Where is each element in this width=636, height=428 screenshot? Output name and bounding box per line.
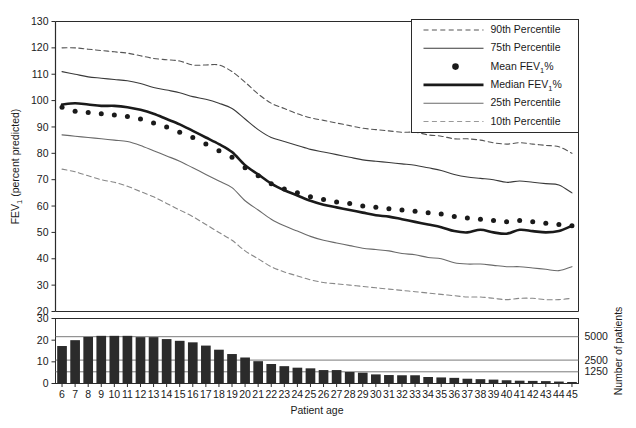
bar	[358, 373, 368, 384]
chart-figure: 2030405060708090100110120130010203012502…	[0, 0, 636, 428]
bar	[410, 375, 420, 383]
bar	[214, 350, 224, 384]
mean-marker	[112, 113, 117, 118]
y2-tick-label: 1250	[585, 365, 609, 377]
x-tick-label: 15	[174, 388, 186, 400]
mean-marker	[230, 155, 235, 160]
y-tick-label: 30	[37, 279, 49, 291]
bar	[240, 358, 250, 384]
bar	[397, 375, 407, 383]
bar	[567, 382, 577, 384]
bar	[70, 340, 80, 383]
x-tick-label: 29	[357, 388, 369, 400]
mean-marker	[530, 219, 535, 224]
legend: 90th Percentile75th PercentileMean FEV1%…	[412, 20, 579, 133]
legend-label: 75th Percentile	[491, 41, 561, 53]
mean-marker	[360, 204, 365, 209]
x-tick-label: 21	[252, 388, 264, 400]
x-tick-label: 34	[422, 388, 434, 400]
y-bar-tick-label: 30	[37, 312, 49, 324]
mean-marker	[413, 209, 418, 214]
mean-marker	[321, 197, 326, 202]
mean-marker	[86, 110, 91, 115]
y-tick-label: 90	[37, 121, 49, 133]
y-tick-label: 110	[32, 68, 49, 80]
mean-marker	[426, 210, 431, 215]
bar	[476, 379, 486, 383]
x-tick-label: 44	[553, 388, 565, 400]
x-axis: 6789101112131415161718192021222324252627…	[59, 384, 578, 416]
bar	[109, 336, 119, 384]
bar	[175, 341, 185, 384]
bar	[528, 381, 538, 384]
mean-marker	[478, 217, 483, 222]
bar	[83, 337, 93, 384]
bar	[188, 342, 198, 383]
bar	[436, 377, 446, 383]
bar	[489, 380, 499, 384]
legend-label: 10th Percentile	[491, 115, 561, 127]
mean-marker	[491, 218, 496, 223]
mean-marker	[164, 124, 169, 129]
bar	[371, 374, 381, 383]
x-tick-label: 24	[292, 388, 304, 400]
x-tick-label: 12	[135, 388, 147, 400]
bar	[201, 346, 211, 384]
y-bar-tick-label: 20	[37, 334, 49, 346]
bar	[345, 372, 355, 383]
bar	[423, 377, 433, 384]
x-tick-label: 42	[527, 388, 539, 400]
legend-label: 25th Percentile	[491, 96, 561, 108]
bar	[136, 337, 146, 383]
bar	[57, 346, 67, 383]
x-tick-label: 19	[226, 388, 238, 400]
y-tick-label: 80	[37, 147, 49, 159]
y-axis-main: 2030405060708090100110120130	[31, 15, 56, 317]
x-tick-label: 35	[435, 388, 447, 400]
mean-marker	[203, 142, 208, 147]
mean-marker	[399, 208, 404, 213]
y-tick-label: 120	[31, 41, 49, 53]
y-tick-label: 130	[31, 15, 49, 27]
y-tick-label: 100	[31, 94, 49, 106]
bar	[449, 378, 459, 384]
y-bar-tick-label: 0	[43, 377, 49, 389]
bar	[96, 336, 106, 384]
bar	[515, 381, 525, 384]
mean-marker	[151, 121, 156, 126]
mean-marker	[386, 206, 391, 211]
bar	[253, 361, 263, 383]
x-tick-label: 38	[475, 388, 487, 400]
x-axis-title: Patient age	[290, 404, 343, 416]
x-tick-label: 22	[265, 388, 277, 400]
legend-marker-dot	[452, 63, 459, 70]
x-tick-label: 33	[409, 388, 421, 400]
mean-marker	[125, 114, 130, 119]
bar	[162, 339, 172, 383]
mean-marker	[216, 148, 221, 153]
x-tick-label: 6	[59, 388, 65, 400]
mean-marker	[99, 111, 104, 116]
bar	[463, 379, 473, 384]
mean-marker	[73, 109, 78, 114]
bar-panel-frame	[56, 319, 579, 384]
mean-marker	[556, 222, 561, 227]
x-tick-label: 40	[501, 388, 513, 400]
bar	[332, 370, 342, 383]
x-tick-label: 7	[72, 388, 78, 400]
mean-marker	[177, 130, 182, 135]
x-tick-label: 23	[278, 388, 290, 400]
y-tick-label: 70	[37, 173, 49, 185]
bar	[306, 368, 316, 383]
x-tick-label: 41	[514, 388, 526, 400]
mean-marker	[465, 215, 470, 220]
bar	[502, 380, 512, 383]
bar	[541, 381, 551, 383]
x-tick-label: 25	[305, 388, 317, 400]
mean-marker	[517, 218, 522, 223]
legend-label: 90th Percentile	[491, 23, 561, 35]
x-tick-label: 30	[370, 388, 382, 400]
mean-marker	[190, 135, 195, 140]
x-tick-label: 43	[540, 388, 552, 400]
x-tick-label: 26	[318, 388, 330, 400]
